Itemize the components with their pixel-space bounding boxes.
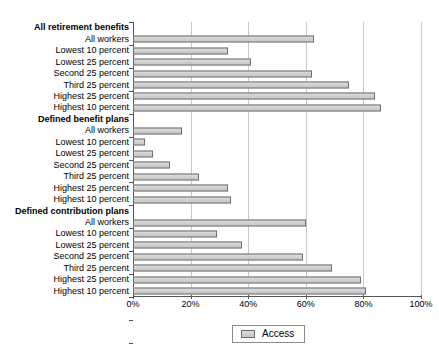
bar bbox=[133, 253, 303, 260]
category-label: Highest 25 percent bbox=[53, 91, 129, 101]
category-label: Third 25 percent bbox=[63, 171, 129, 181]
bar-row bbox=[133, 68, 421, 79]
category-label: Lowest 25 percent bbox=[55, 240, 129, 250]
category-label: Highest 10 percent bbox=[53, 102, 129, 112]
bar-rows bbox=[133, 22, 421, 297]
legend-label-access: Access bbox=[262, 328, 294, 340]
gridline bbox=[421, 22, 422, 297]
bar bbox=[133, 36, 314, 43]
legend-swatch-access bbox=[241, 330, 255, 338]
bar bbox=[133, 242, 242, 249]
x-axis-tick-label: 80% bbox=[354, 299, 372, 310]
bar-chart: All retirement benefitsAll workersLowest… bbox=[0, 0, 439, 363]
bar bbox=[133, 93, 375, 100]
category-label: All workers bbox=[85, 217, 129, 227]
category-label: Highest 25 percent bbox=[53, 183, 129, 193]
bar bbox=[133, 196, 231, 203]
bar-row bbox=[133, 263, 421, 274]
bar bbox=[133, 150, 153, 157]
x-axis-tick-labels: 0%20%40%60%80%100% bbox=[133, 299, 421, 313]
category-label: Third 25 percent bbox=[63, 80, 129, 90]
bar-row bbox=[133, 217, 421, 228]
bar-row bbox=[133, 137, 421, 148]
bar-row bbox=[133, 194, 421, 205]
bar bbox=[133, 276, 361, 283]
bar bbox=[133, 173, 199, 180]
bar-row bbox=[133, 33, 421, 44]
plot-area bbox=[133, 22, 421, 297]
category-label: Lowest 10 percent bbox=[55, 45, 129, 55]
x-axis-tick-label: 20% bbox=[182, 299, 200, 310]
group-header-label: Defined benefit plans bbox=[38, 114, 129, 124]
category-label: Lowest 25 percent bbox=[55, 57, 129, 67]
bar-row bbox=[133, 102, 421, 113]
bar bbox=[133, 82, 349, 89]
y-axis-tick bbox=[129, 320, 133, 321]
category-label: Lowest 10 percent bbox=[55, 228, 129, 238]
category-label: All workers bbox=[85, 34, 129, 44]
group-header-label: Defined contribution plans bbox=[15, 206, 129, 216]
bar bbox=[133, 265, 332, 272]
category-label: Lowest 10 percent bbox=[55, 137, 129, 147]
bar bbox=[133, 162, 170, 169]
group-header-row bbox=[133, 22, 421, 33]
bar-row bbox=[133, 251, 421, 262]
bar-row bbox=[133, 274, 421, 285]
group-header-label: All retirement benefits bbox=[34, 22, 129, 32]
category-label: Highest 10 percent bbox=[53, 194, 129, 204]
bar-row bbox=[133, 148, 421, 159]
bar-row bbox=[133, 79, 421, 90]
y-axis-tick bbox=[129, 22, 133, 23]
category-label: Highest 25 percent bbox=[53, 274, 129, 284]
chart-legend: Access bbox=[232, 325, 305, 343]
group-header-row bbox=[133, 114, 421, 125]
bar-row bbox=[133, 286, 421, 297]
bar bbox=[133, 230, 217, 237]
x-axis-tick-label: 0% bbox=[126, 299, 139, 310]
category-label-column: All retirement benefitsAll workersLowest… bbox=[0, 22, 131, 297]
bar-row bbox=[133, 171, 421, 182]
bar bbox=[133, 185, 228, 192]
y-axis-tick bbox=[129, 343, 133, 344]
bar-row bbox=[133, 45, 421, 56]
bar-row bbox=[133, 240, 421, 251]
bar bbox=[133, 288, 366, 295]
bar bbox=[133, 104, 381, 111]
bar-row bbox=[133, 160, 421, 171]
category-label: Second 25 percent bbox=[53, 251, 129, 261]
bar-row bbox=[133, 91, 421, 102]
bar-row bbox=[133, 182, 421, 193]
x-axis-tick-label: 60% bbox=[297, 299, 315, 310]
x-axis-tick-label: 40% bbox=[239, 299, 257, 310]
category-label: Second 25 percent bbox=[53, 160, 129, 170]
group-header-row bbox=[133, 205, 421, 216]
category-label: Lowest 25 percent bbox=[55, 148, 129, 158]
category-label: Highest 10 percent bbox=[53, 286, 129, 296]
category-label: Third 25 percent bbox=[63, 263, 129, 273]
bar bbox=[133, 59, 251, 66]
bar bbox=[133, 127, 182, 134]
bar bbox=[133, 139, 145, 146]
x-axis-tick-label: 100% bbox=[409, 299, 432, 310]
bar bbox=[133, 47, 228, 54]
bar-row bbox=[133, 125, 421, 136]
category-label: All workers bbox=[85, 125, 129, 135]
bar-row bbox=[133, 56, 421, 67]
bar-row bbox=[133, 228, 421, 239]
bar bbox=[133, 70, 312, 77]
category-label: Second 25 percent bbox=[53, 68, 129, 78]
bar bbox=[133, 219, 306, 226]
